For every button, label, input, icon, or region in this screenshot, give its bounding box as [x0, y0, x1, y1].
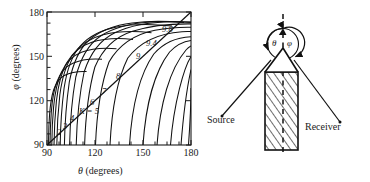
contour-label: 3 — [63, 122, 67, 131]
contour-label: 2 — [57, 128, 61, 137]
x-tick-label-120: 120 — [82, 148, 108, 158]
contour-label: 9.8 — [162, 25, 173, 34]
y-axis-unit: (degrees) — [10, 44, 21, 81]
source-label: Source — [207, 115, 235, 125]
y-tick-label-120: 120 — [18, 96, 44, 106]
wedge-diagram-canvas — [200, 0, 370, 182]
contour-label: 7 — [102, 87, 106, 96]
x-axis-symbol: θ — [78, 165, 83, 176]
receiver-ray — [294, 60, 340, 122]
contour-label: 8 — [116, 72, 120, 81]
phi-angle-label: φ — [287, 39, 292, 48]
contour-label: 9 — [136, 52, 140, 61]
y-tick-label-150: 150 — [18, 52, 44, 62]
receiver-label: Receiver — [305, 122, 341, 132]
contour-label: 4 — [70, 114, 74, 123]
contour-label: 6 — [90, 98, 94, 107]
source-ray — [222, 60, 271, 116]
x-axis-unit: (degrees) — [85, 165, 122, 176]
hatched-block — [265, 72, 298, 150]
figure-container: 180 150 120 90 90 120 150 180 φ (degrees… — [0, 0, 370, 182]
y-axis-title: φ (degrees) — [11, 17, 21, 117]
x-tick-label-90: 90 — [34, 148, 60, 158]
x-tick-label-150: 150 — [130, 148, 156, 158]
theta-angle-label: θ — [272, 39, 276, 48]
x-axis-title: θ (degrees) — [78, 166, 123, 176]
y-tick-label-180: 180 — [18, 8, 44, 18]
y-axis-symbol: φ — [10, 84, 21, 90]
contour-label-k5: K = 5 — [79, 107, 99, 116]
contour-label: 9.4 — [146, 39, 157, 48]
